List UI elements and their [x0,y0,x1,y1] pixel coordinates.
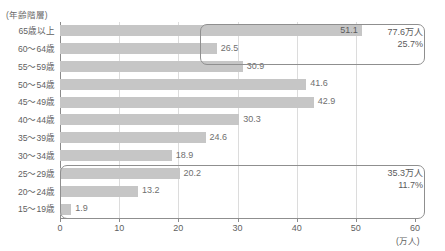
y-axis-label: 40〜44歳 [0,114,55,126]
x-tick-label: 40 [285,223,309,233]
bar-value-label: 30.9 [247,60,265,73]
bar-row: 1.9 [60,200,415,218]
y-axis-label: 25〜29歳 [0,168,55,180]
bar-value-label: 13.2 [142,184,160,197]
bar [60,79,306,90]
bar-value-label: 42.9 [318,95,336,108]
bar [60,43,217,54]
x-tick-mark [297,218,298,222]
y-axis-label: 60〜64歳 [0,43,55,55]
y-axis-label: 35〜39歳 [0,132,55,144]
y-axis-label: 20〜24歳 [0,186,55,198]
bar-row: 13.2 [60,182,415,200]
bar-value-label: 1.9 [75,202,88,215]
bar-row: 26.5 [60,40,415,58]
bar-value-label: 24.6 [210,131,228,144]
x-tick-mark [119,218,120,222]
bar-value-label: 20.2 [184,167,202,180]
bar [60,168,180,179]
annotation-count: 77.6万人 [387,27,423,37]
annotation-percent: 25.7% [387,39,423,51]
annotation-text-upper-group: 77.6万人25.7% [387,27,423,50]
bar-row: 18.9 [60,147,415,165]
bar-row: 30.9 [60,58,415,76]
bar-row: 20.2 [60,165,415,183]
plot-area: 51.126.530.941.642.930.324.618.920.213.2… [60,22,415,218]
x-tick-mark [60,218,61,222]
x-tick-label: 0 [48,223,72,233]
annotation-percent: 11.7% [387,180,423,192]
y-axis-label: 50〜54歳 [0,79,55,91]
annotation-count: 35.3万人 [387,168,423,178]
bar-row: 30.3 [60,111,415,129]
bar [60,61,243,72]
y-axis-caption: (年齢階層) [6,8,48,20]
bar-value-label: 41.6 [310,77,328,90]
bar [60,204,71,215]
bar [60,25,362,36]
bar [60,150,172,161]
bar [60,186,138,197]
bar-row: 24.6 [60,129,415,147]
x-tick-label: 30 [226,223,250,233]
bar-value-label: 30.3 [243,113,261,126]
bar-row: 41.6 [60,75,415,93]
x-tick-mark [356,218,357,222]
bar [60,97,314,108]
x-axis-unit-label: (万人) [396,234,420,246]
bar [60,132,206,143]
x-tick-mark [415,218,416,222]
bar [60,114,239,125]
y-axis-label: 65歳以上 [0,25,55,37]
x-tick-mark [238,218,239,222]
x-tick-label: 20 [166,223,190,233]
x-tick-mark [178,218,179,222]
y-axis-label: 30〜34歳 [0,150,55,162]
bar-chart: (年齢階層) 51.126.530.941.642.930.324.618.92… [0,0,445,251]
x-tick-label: 60 [403,223,427,233]
bar-row: 42.9 [60,93,415,111]
bar-value-label: 51.1 [340,24,358,37]
y-axis-label: 15〜19歳 [0,203,55,215]
bar-value-label: 26.5 [221,42,239,55]
bar-row: 51.1 [60,22,415,40]
bar-value-label: 18.9 [176,149,194,162]
x-tick-label: 50 [344,223,368,233]
annotation-text-lower-group: 35.3万人11.7% [387,168,423,191]
y-axis-label: 55〜59歳 [0,61,55,73]
y-axis-label: 45〜49歳 [0,96,55,108]
x-tick-label: 10 [107,223,131,233]
